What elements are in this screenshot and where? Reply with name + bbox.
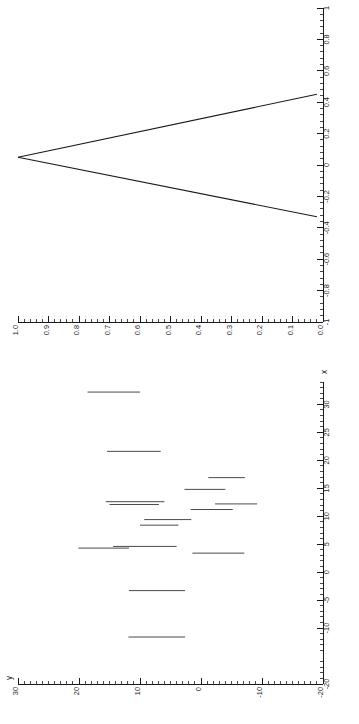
bottom-x-tick-label: 15 bbox=[322, 484, 331, 492]
bottom-x-axis-label: x bbox=[320, 370, 329, 374]
top-v-tick-label: -1 bbox=[322, 319, 331, 326]
top-h-tick-label: 0.3 bbox=[225, 325, 234, 335]
top-chart-svg: 1.00.90.80.70.60.50.40.30.20.10.0-1-0.8-… bbox=[0, 0, 359, 362]
bottom-x-tick-label: 5 bbox=[322, 542, 331, 546]
bottom-y-tick-label: -10 bbox=[255, 687, 264, 698]
figure-page: 1.00.90.80.70.60.50.40.30.20.10.0-1-0.8-… bbox=[0, 0, 359, 724]
bottom-chart-svg: 3020100-10-20y-20-10-5051015202530x bbox=[0, 362, 359, 724]
top-v-tick-label: -0.4 bbox=[322, 221, 331, 234]
bottom-x-tick-label: -5 bbox=[322, 597, 331, 604]
top-v-tick-label: -0.6 bbox=[322, 253, 331, 266]
top-v-tick-label: 0.6 bbox=[322, 66, 331, 76]
top-h-tick-label: 0.9 bbox=[42, 325, 51, 335]
top-v-tick-label: -0.8 bbox=[322, 284, 331, 297]
top-h-tick-label: 0.5 bbox=[164, 325, 173, 335]
bottom-y-tick-label: 10 bbox=[133, 687, 142, 695]
top-h-tick-label: 0.4 bbox=[194, 325, 203, 335]
bottom-y-tick-label: 20 bbox=[72, 687, 81, 695]
top-v-tick-label: 0 bbox=[322, 163, 331, 167]
top-series-upper-branch bbox=[18, 94, 317, 157]
top-h-tick-label: 0.0 bbox=[316, 325, 325, 335]
bottom-x-tick-label: 20 bbox=[322, 456, 331, 464]
bottom-y-tick-label: 30 bbox=[11, 687, 20, 695]
top-series-lower-branch bbox=[18, 157, 317, 217]
bottom-x-tick-label: 0 bbox=[322, 570, 331, 574]
bottom-x-tick-label: 30 bbox=[322, 400, 331, 408]
top-h-tick-label: 0.1 bbox=[286, 325, 295, 335]
top-h-tick-label: 0.7 bbox=[103, 325, 112, 335]
top-v-tick-label: 0.8 bbox=[322, 34, 331, 44]
bottom-x-tick-label: 25 bbox=[322, 428, 331, 436]
bottom-x-tick-label: -20 bbox=[322, 679, 331, 690]
top-chart-panel: 1.00.90.80.70.60.50.40.30.20.10.0-1-0.8-… bbox=[0, 0, 359, 362]
bottom-y-tick-label: 0 bbox=[194, 687, 203, 691]
bottom-x-tick-label: 10 bbox=[322, 512, 331, 520]
top-v-tick-label: 1 bbox=[322, 6, 331, 10]
bottom-y-axis-label: y bbox=[5, 675, 14, 680]
bottom-x-tick-label: -10 bbox=[322, 623, 331, 634]
top-v-tick-label: -0.2 bbox=[322, 190, 331, 203]
bottom-chart-panel: 3020100-10-20y-20-10-5051015202530x bbox=[0, 362, 359, 724]
top-h-tick-label: 0.8 bbox=[72, 325, 81, 335]
top-v-tick-label: 0.2 bbox=[322, 128, 331, 138]
top-v-tick-label: 0.4 bbox=[322, 97, 331, 107]
top-h-tick-label: 1.0 bbox=[11, 325, 20, 335]
top-h-tick-label: 0.2 bbox=[255, 325, 264, 335]
top-h-tick-label: 0.6 bbox=[133, 325, 142, 335]
